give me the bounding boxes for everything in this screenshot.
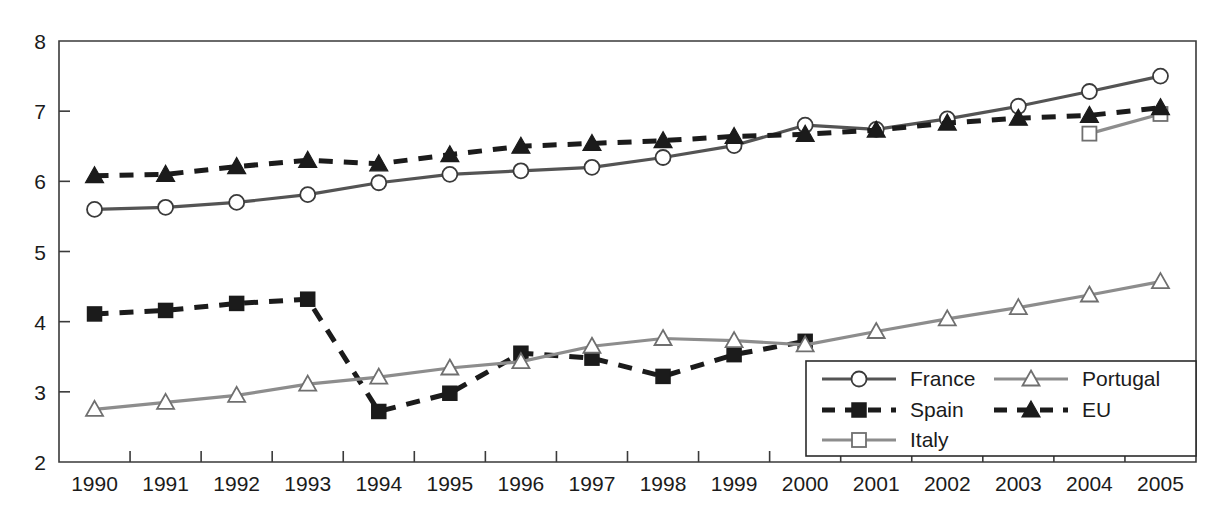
legend-label: France: [910, 367, 975, 390]
chart-canvas: 2345678 19901991199219931994199519961997…: [0, 0, 1226, 514]
data-point-marker: [1153, 69, 1168, 84]
data-point-marker: [229, 195, 244, 210]
data-point-marker: [727, 348, 741, 362]
x-tick-label: 2003: [995, 472, 1042, 495]
data-point-marker: [371, 175, 386, 190]
x-tick-label: 1994: [355, 472, 402, 495]
y-axis-ticks: 2345678: [34, 30, 70, 474]
data-point-marker: [442, 167, 457, 182]
data-point-marker: [852, 403, 866, 417]
x-tick-label: 2005: [1137, 472, 1184, 495]
y-tick-label: 5: [34, 241, 46, 264]
y-tick-label: 3: [34, 381, 46, 404]
x-tick-label: 2000: [782, 472, 829, 495]
data-point-marker: [656, 369, 670, 383]
series-line: [1089, 114, 1160, 134]
x-tick-label: 2001: [853, 472, 900, 495]
x-tick-label: 1999: [711, 472, 758, 495]
data-point-marker: [87, 202, 102, 217]
x-tick-label: 1990: [71, 472, 118, 495]
data-point-marker: [1152, 273, 1169, 288]
y-tick-label: 2: [34, 451, 46, 474]
x-tick-label: 1991: [142, 472, 189, 495]
x-tick-label: 2002: [924, 472, 971, 495]
series-eu: [86, 99, 1170, 183]
data-point-marker: [443, 386, 457, 400]
series-line: [95, 108, 1161, 176]
x-tick-label: 1993: [284, 472, 331, 495]
data-point-marker: [852, 433, 866, 447]
legend-label: Italy: [910, 428, 949, 451]
x-axis-ticks: 1990199119921993199419951996199719981999…: [71, 451, 1184, 495]
x-tick-label: 2004: [1066, 472, 1113, 495]
data-point-marker: [1082, 127, 1096, 141]
legend: FrancePortugalSpainEUItaly: [806, 361, 1196, 456]
data-point-marker: [584, 160, 599, 175]
x-tick-label: 1997: [569, 472, 616, 495]
y-tick-label: 6: [34, 170, 46, 193]
x-tick-label: 1992: [213, 472, 260, 495]
x-tick-label: 1998: [640, 472, 687, 495]
legend-label: Spain: [910, 398, 964, 421]
y-tick-label: 4: [34, 311, 46, 334]
y-tick-label: 7: [34, 100, 46, 123]
y-tick-label: 8: [34, 30, 46, 53]
legend-label: EU: [1082, 398, 1111, 421]
data-point-marker: [159, 303, 173, 317]
x-tick-label: 1996: [498, 472, 545, 495]
data-point-marker: [852, 372, 867, 387]
data-point-marker: [88, 307, 102, 321]
data-point-marker: [372, 404, 386, 418]
data-point-marker: [158, 200, 173, 215]
data-point-marker: [656, 150, 671, 165]
legend-label: Portugal: [1082, 367, 1160, 390]
line-chart: 2345678 19901991199219931994199519961997…: [0, 0, 1226, 514]
data-point-marker: [300, 187, 315, 202]
x-tick-label: 1995: [426, 472, 473, 495]
data-point-marker: [513, 163, 528, 178]
data-point-marker: [301, 292, 315, 306]
data-point-marker: [1082, 84, 1097, 99]
data-point-marker: [230, 296, 244, 310]
